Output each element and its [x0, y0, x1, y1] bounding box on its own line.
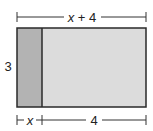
left-height-label: 3	[4, 59, 11, 74]
area-model-diagram: x + 4 3 x 4	[0, 0, 153, 131]
top-dimension: x + 4	[17, 10, 146, 25]
bottom-right-width-label: 4	[90, 113, 97, 128]
top-width-label: x + 4	[67, 10, 97, 25]
bottom-left-width-label: x	[26, 113, 34, 128]
right-region	[42, 28, 146, 107]
left-region	[17, 28, 42, 107]
bottom-dimension: x 4	[17, 113, 146, 128]
